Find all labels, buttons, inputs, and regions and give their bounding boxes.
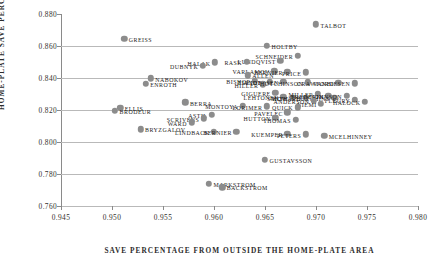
data-point[interactable] <box>219 184 225 190</box>
y-tick-label: 0.880 <box>11 10 57 19</box>
x-tick-label: 0.960 <box>205 213 223 222</box>
data-point-label: MCELHINNEY <box>329 134 373 140</box>
y-tick-label: 0.800 <box>11 138 57 147</box>
data-point[interactable] <box>262 156 268 162</box>
data-point[interactable] <box>303 131 309 137</box>
data-point[interactable] <box>294 53 300 59</box>
data-point-label: PRICE <box>282 71 301 77</box>
scatter-chart-root: HOME-PLATE SAVE PERCENTAGE 0.8800.8600.8… <box>0 0 445 270</box>
data-point[interactable] <box>318 100 324 106</box>
gridline <box>61 46 418 47</box>
y-tick-label: 0.780 <box>11 170 57 179</box>
data-point[interactable] <box>313 21 319 27</box>
data-point-label: BRYZGALOV <box>145 127 186 133</box>
y-tick-mark <box>57 174 61 175</box>
data-point[interactable] <box>148 75 154 81</box>
gridline <box>61 206 418 207</box>
y-tick-mark <box>57 14 61 15</box>
x-tick-label: 0.975 <box>358 213 376 222</box>
gridline <box>61 142 418 143</box>
y-tick-label: 0.820 <box>11 106 57 115</box>
y-axis-title: HOME-PLATE SAVE PERCENTAGE <box>0 0 6 110</box>
x-tick-label: 0.970 <box>307 213 325 222</box>
gridline <box>61 174 418 175</box>
x-tick-mark <box>61 206 62 210</box>
data-point[interactable] <box>212 59 218 65</box>
data-point-label: BRODEUR <box>120 109 152 115</box>
data-point[interactable] <box>182 99 188 105</box>
y-tick-label: 0.860 <box>11 42 57 51</box>
data-point[interactable] <box>362 98 368 104</box>
x-tick-mark <box>418 206 419 210</box>
data-point[interactable] <box>201 115 207 121</box>
data-point[interactable] <box>112 108 118 114</box>
data-point[interactable] <box>303 69 309 75</box>
x-axis-title: SAVE PERCENTAGE FROM OUTSIDE THE HOME-PL… <box>61 246 418 255</box>
data-point[interactable] <box>200 62 206 68</box>
data-point[interactable] <box>209 112 215 118</box>
data-point[interactable] <box>188 119 194 125</box>
data-point-label: HILLER <box>235 83 259 89</box>
data-point-label: PETERS <box>277 133 301 139</box>
y-tick-label: 0.840 <box>11 74 57 83</box>
data-point-label: ENROTH <box>150 82 177 88</box>
data-point-label: HALOCK <box>333 100 361 106</box>
data-point[interactable] <box>264 43 270 49</box>
data-point[interactable] <box>264 103 270 109</box>
x-tick-label: 0.955 <box>154 213 172 222</box>
x-tick-label: 0.945 <box>52 213 70 222</box>
data-point-label: GUSTAVSSON <box>270 158 313 164</box>
data-point[interactable] <box>206 180 212 186</box>
x-tick-mark <box>367 206 368 210</box>
data-point-label: WARD <box>168 121 187 127</box>
data-point-label: TALBOT <box>321 23 347 29</box>
data-point[interactable] <box>352 80 358 86</box>
x-tick-mark <box>316 206 317 210</box>
data-point-label: BERNIER <box>203 130 232 136</box>
data-point-label: THOMAS <box>263 118 291 124</box>
y-tick-mark <box>57 78 61 79</box>
y-tick-mark <box>57 142 61 143</box>
x-tick-label: 0.965 <box>256 213 274 222</box>
data-point-label: HOLTBY <box>272 44 298 50</box>
plot-area: 0.8800.8600.8400.8200.8000.7800.760 0.94… <box>61 14 418 206</box>
x-tick-mark <box>163 206 164 210</box>
data-point[interactable] <box>233 129 239 135</box>
y-tick-mark <box>57 110 61 111</box>
x-tick-label: 0.950 <box>103 213 121 222</box>
y-tick-mark <box>57 46 61 47</box>
data-point[interactable] <box>142 80 148 86</box>
x-tick-mark <box>112 206 113 210</box>
data-point-label: RASK <box>224 60 242 66</box>
x-tick-label: 0.980 <box>409 213 427 222</box>
data-point[interactable] <box>277 58 283 64</box>
data-point-label: VANBIESEN <box>313 81 350 87</box>
data-point[interactable] <box>321 132 327 138</box>
data-point-label: BACKSTROM <box>227 185 268 191</box>
data-point[interactable] <box>137 126 143 132</box>
data-point[interactable] <box>292 117 298 123</box>
x-tick-mark <box>214 206 215 210</box>
data-point-label: DUBNYK <box>170 64 198 70</box>
data-point-label: GREISS <box>129 37 152 43</box>
x-tick-mark <box>265 206 266 210</box>
y-tick-label: 0.760 <box>11 202 57 211</box>
data-point[interactable] <box>121 36 127 42</box>
data-point[interactable] <box>284 109 290 115</box>
